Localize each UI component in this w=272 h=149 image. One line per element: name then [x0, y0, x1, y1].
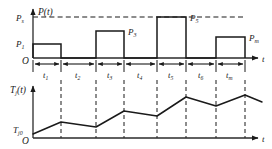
interval-label-t2: t2	[75, 70, 80, 81]
p1-label-sub: 1	[22, 44, 25, 50]
tj-label-tail: (t)	[17, 85, 26, 96]
ps-level-label: Ps	[15, 13, 25, 24]
bottom-origin-label: O	[22, 136, 29, 146]
p3-label-sub: 3	[133, 32, 137, 38]
interval-label-t5: t5	[168, 70, 173, 81]
p3-pulse-label: P3	[127, 27, 137, 38]
junction-temperature-curve	[33, 95, 262, 134]
p5-label-sub: 5	[196, 18, 199, 24]
t4-sub: 4	[139, 75, 142, 81]
tj0-baseline-label: Tj0	[13, 125, 23, 136]
interval-label-t6: t6	[198, 70, 203, 81]
interval-label-t4: t4	[137, 70, 142, 81]
pm-pulse-label: Pm	[248, 33, 260, 44]
top-origin-label: O	[22, 56, 29, 66]
ps-label-sub: s	[22, 18, 25, 24]
interval-guide-dashed-lines	[61, 80, 245, 138]
figure-container: P(t) t O Ps P1 P3 P5 Pm	[0, 0, 272, 149]
interval-label-t1: t1	[43, 70, 48, 81]
t3-sub: 3	[108, 75, 112, 81]
top-y-axis-label: P(t)	[37, 7, 53, 18]
bottom-y-axis-label: Tj(t)	[10, 85, 26, 96]
top-x-axis-label: t	[262, 54, 265, 64]
interval-label-tm: tm	[226, 70, 232, 81]
tj0-sub: j0	[17, 130, 23, 136]
t1-sub: 1	[45, 75, 48, 81]
t2-sub: 2	[77, 75, 80, 81]
p5-pulse-label: P5	[189, 13, 199, 24]
t5-sub: 5	[170, 75, 173, 81]
p1-level-label: P1	[15, 39, 25, 50]
pm-label-sub: m	[255, 38, 260, 44]
waveform-diagram: P(t) t O Ps P1 P3 P5 Pm	[0, 0, 272, 149]
t6-sub: 6	[200, 75, 203, 81]
tm-sub: m	[228, 75, 232, 81]
bottom-x-axis-label: t	[262, 134, 265, 144]
interval-label-t3: t3	[107, 70, 112, 81]
power-pulse-train	[33, 17, 245, 58]
